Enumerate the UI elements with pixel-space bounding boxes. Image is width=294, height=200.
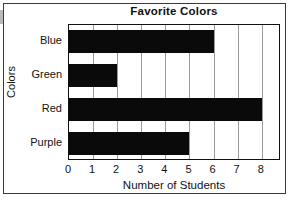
bar-row [69,93,281,127]
bar-row [69,25,281,59]
category-label-green: Green [0,68,62,80]
plot-area [68,24,280,160]
scan-artifact [0,10,3,24]
category-label-blue: Blue [0,34,62,46]
bar-red [69,98,262,121]
bar-blue [69,30,214,53]
x-tick-4: 4 [155,163,173,175]
x-axis-title: Number of Students [68,179,280,191]
category-label-red: Red [0,102,62,114]
bar-row [69,127,281,161]
x-tick-8: 8 [252,163,270,175]
x-tick-1: 1 [83,163,101,175]
x-tick-7: 7 [228,163,246,175]
x-tick-6: 6 [204,163,222,175]
x-tick-3: 3 [131,163,149,175]
x-tick-5: 5 [179,163,197,175]
category-label-purple: Purple [0,136,62,148]
chart-title: Favorite Colors [68,5,280,17]
x-tick-2: 2 [107,163,125,175]
bar-green [69,64,117,87]
x-tick-0: 0 [59,163,77,175]
bar-row [69,59,281,93]
bar-purple [69,132,189,155]
